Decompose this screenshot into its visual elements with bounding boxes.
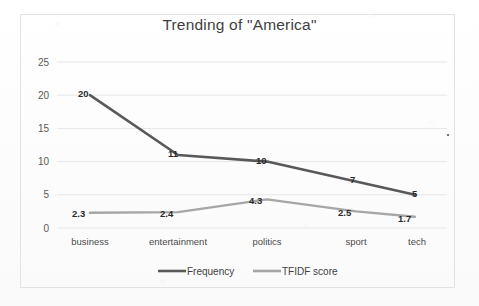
tfidf-data-label-business: 2.3 — [72, 208, 85, 219]
y-tick-label-10: 10 — [38, 156, 50, 167]
x-label-entertainment: entertainment — [149, 236, 207, 247]
tfidf-data-label-sport: 2.5 — [338, 207, 352, 218]
y-tick-label-25: 25 — [38, 57, 50, 68]
y-tick-label-15: 15 — [38, 123, 50, 134]
x-label-tech: tech — [408, 236, 426, 247]
tfidf-data-label-entertainment: 2.4 — [160, 208, 174, 219]
frequency-data-label-tech: 5 — [412, 188, 418, 199]
frequency-data-labels: 20 11 10 7 5 — [78, 88, 418, 199]
tfidf-data-label-tech: 1.7 — [398, 213, 411, 224]
y-axis-tick-labels: 25 20 15 10 5 0 — [38, 57, 50, 234]
chart-title: Trending of "America" — [0, 16, 479, 34]
frequency-line[interactable] — [90, 95, 415, 195]
frequency-data-label-politics: 10 — [256, 155, 267, 166]
x-label-sport: sport — [345, 236, 366, 247]
x-label-business: business — [71, 236, 109, 247]
scan-artifact-speck — [447, 134, 449, 136]
x-label-politics: politics — [252, 236, 281, 247]
chart-legend[interactable]: Frequency TFIDF score — [158, 266, 338, 277]
tfidf-score-data-labels: 2.3 2.4 4.3 2.5 1.7 — [72, 195, 411, 224]
legend-label-tfidf-score[interactable]: TFIDF score — [282, 266, 338, 277]
y-tick-label-5: 5 — [43, 189, 49, 200]
frequency-data-label-business: 20 — [78, 88, 89, 99]
legend-label-frequency[interactable]: Frequency — [187, 266, 234, 277]
series-frequency[interactable] — [90, 95, 415, 195]
frequency-data-label-entertainment: 11 — [168, 148, 179, 159]
line-chart-plot[interactable]: 25 20 15 10 5 0 20 11 10 7 5 2.3 2.4 4.3… — [0, 0, 479, 306]
tfidf-data-label-politics: 4.3 — [249, 195, 262, 206]
y-tick-label-0: 0 — [43, 223, 49, 234]
y-tick-label-20: 20 — [38, 90, 50, 101]
x-axis-category-labels: business entertainment politics sport te… — [71, 236, 426, 247]
frequency-data-label-sport: 7 — [350, 174, 355, 185]
